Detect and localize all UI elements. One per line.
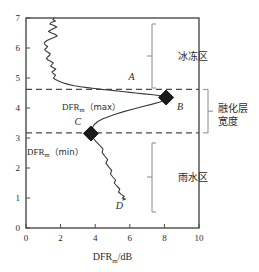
zone-label-melting-2: 宽度 (218, 115, 238, 127)
y-tick-label: 7 (16, 13, 21, 23)
dfr-min-annotation: DFRm（min） (27, 147, 84, 158)
point-label-b: B (177, 101, 183, 112)
frozen-zone-bracket-shape (152, 24, 156, 88)
chart-figure: 024681001234567ABCDDFRm（max）DFRm（min）冰冻区… (0, 0, 259, 272)
y-tick-label: 6 (16, 43, 21, 53)
plot-frame (26, 18, 199, 228)
point-label-c: C (75, 116, 82, 127)
y-axis-ticks: 01234567 (16, 13, 31, 233)
melting-layer-bracket-shape (203, 89, 208, 132)
rain-zone-bracket (152, 143, 156, 212)
y-tick-label: 2 (16, 163, 21, 173)
zone-label-melting-1: 融化层 (218, 102, 248, 114)
melting-layer-bracket (203, 89, 213, 132)
x-tick-label: 4 (93, 233, 98, 243)
rain-zone-bracket-shape (152, 143, 156, 212)
marker-b (159, 90, 174, 105)
zone-label-frozen: 冰冻区 (178, 50, 208, 62)
dfr-min-annotation-text: DFRm（min） (27, 147, 84, 158)
y-tick-label: 3 (16, 133, 21, 143)
x-tick-label: 10 (195, 233, 205, 243)
marker-c (83, 126, 98, 141)
frozen-zone-bracket (152, 24, 156, 88)
x-tick-label: 6 (128, 233, 133, 243)
dfr-max-annotation-text: DFRm（max） (62, 102, 121, 113)
dfr-max-annotation: DFRm（max） (62, 102, 121, 113)
x-tick-label: 8 (162, 233, 167, 243)
x-axis-title: DFRm/dB (93, 251, 133, 265)
chart-canvas: 024681001234567ABCDDFRm（max）DFRm（min）冰冻区… (0, 0, 259, 272)
x-tick-label: 0 (24, 233, 29, 243)
point-label-a: A (127, 71, 135, 82)
y-tick-label: 0 (16, 223, 21, 233)
y-tick-label: 4 (16, 103, 21, 113)
y-tick-label: 5 (16, 73, 21, 83)
zone-label-rain: 雨水区 (178, 172, 208, 183)
x-axis-ticks: 0246810 (24, 224, 204, 243)
point-label-d: D (115, 200, 124, 211)
x-tick-label: 2 (58, 233, 63, 243)
y-tick-label: 1 (16, 193, 21, 203)
